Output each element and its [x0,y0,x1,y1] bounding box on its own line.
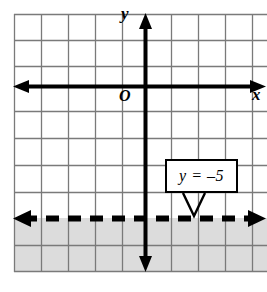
equation-callout-label: y = –5 [179,167,224,185]
x-axis-left-arrowhead [13,80,29,93]
y-axis-label: y [121,5,129,22]
equation-callout-box: y = –5 [165,159,238,193]
y-axis-up-arrowhead [139,13,152,29]
origin-label: O [119,88,131,104]
graph-canvas [0,0,267,292]
x-axis-label: x [252,86,261,103]
coordinate-plane-figure: y x O y = –5 [0,0,267,292]
callout-tail [183,193,205,216]
x-axis [13,80,266,93]
